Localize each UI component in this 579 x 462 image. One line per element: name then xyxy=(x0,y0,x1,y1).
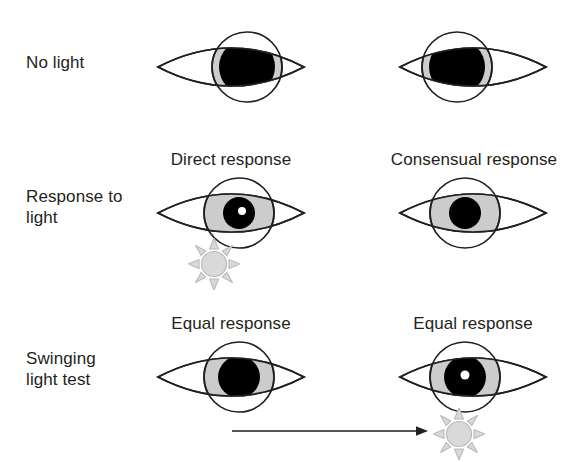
column-label-equal-response-right: Equal response xyxy=(395,314,551,334)
eye-no-light-right xyxy=(398,30,548,104)
light-swing-arrow xyxy=(232,420,432,442)
sun-disc xyxy=(202,252,227,277)
eye-swinging-right xyxy=(398,340,548,414)
eye-no-light-left xyxy=(156,30,306,104)
eye-consensual-response xyxy=(398,176,548,250)
pupillary-reflex-diagram: No light xyxy=(0,0,579,462)
pupil-highlight xyxy=(461,371,470,380)
row-label-swinging-light-test: Swinging light test xyxy=(26,348,156,390)
arrow-head xyxy=(416,426,428,436)
light-source-icon-swinging xyxy=(433,408,485,460)
column-label-direct-response: Direct response xyxy=(151,150,311,170)
row-label-response-to-light: Response to light xyxy=(26,186,156,228)
sun-disc xyxy=(447,422,472,447)
light-source-icon-direct xyxy=(188,238,240,290)
eye-swinging-left xyxy=(156,340,306,414)
row-label-no-light: No light xyxy=(26,52,146,73)
column-label-equal-response-left: Equal response xyxy=(153,314,309,334)
pupil-shape xyxy=(449,197,481,229)
column-label-consensual-response: Consensual response xyxy=(376,150,572,170)
pupil-highlight xyxy=(238,207,246,215)
pupil-shape xyxy=(218,356,260,398)
